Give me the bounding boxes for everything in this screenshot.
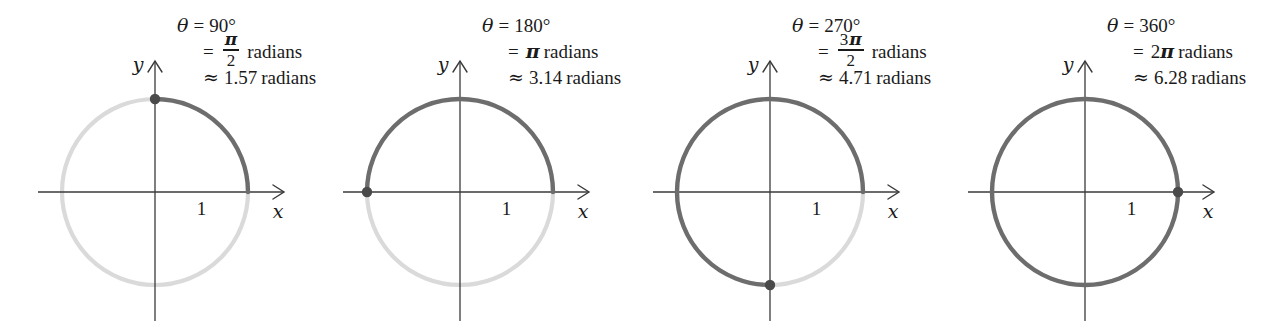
- fraction-numerator: π: [223, 31, 239, 49]
- theta-symbol: θ: [177, 16, 188, 35]
- label-degrees: θ=90°: [177, 12, 316, 38]
- label-radians-exact: =π2radians: [177, 38, 316, 64]
- x-axis-label: x: [1203, 200, 1214, 222]
- radians-word: radians: [1178, 42, 1233, 61]
- radius-label: 1: [1127, 198, 1137, 219]
- radians-approx-value: 4.71: [839, 68, 872, 87]
- label-radians-approx: ≈3.14radians: [482, 64, 621, 90]
- equals-sign: =: [508, 42, 519, 61]
- degrees-value: 360°: [1139, 16, 1175, 35]
- radians-approx-value: 1.57: [224, 68, 257, 87]
- angle-label-block: θ=360°=2πradians≈6.28radians: [1107, 12, 1246, 90]
- equals-sign: =: [498, 16, 509, 35]
- terminal-point-dot: [362, 187, 372, 197]
- radians-approx-value: 3.14: [529, 68, 562, 87]
- label-radians-approx: ≈6.28radians: [1107, 64, 1246, 90]
- angle-label-block: θ=180°=πradians≈3.14radians: [482, 12, 621, 90]
- radians-word: radians: [876, 68, 931, 87]
- approx-sign: ≈: [508, 68, 524, 87]
- theta-symbol: θ: [482, 16, 493, 35]
- radians-coefficient: 2: [1151, 41, 1161, 62]
- theta-symbol: θ: [792, 16, 803, 35]
- terminal-point-dot: [765, 280, 775, 290]
- panel-270: 1xyθ=270°=3π2radians≈4.71radians: [620, 0, 920, 335]
- panel-180: 1xyθ=180°=πradians≈3.14radians: [310, 0, 610, 335]
- circle-arc-traced: [155, 99, 248, 192]
- panel-360: 1xyθ=360°=2πradians≈6.28radians: [935, 0, 1235, 335]
- fraction-denominator: 2: [844, 52, 857, 70]
- equals-sign: =: [818, 42, 829, 61]
- degrees-value: 180°: [514, 16, 550, 35]
- pi-symbol: π: [225, 29, 237, 49]
- approx-sign: ≈: [1133, 68, 1149, 87]
- panel-90: 1xyθ=90°=π2radians≈1.57radians: [5, 0, 305, 335]
- radius-label: 1: [502, 198, 512, 219]
- pi-symbol: π: [849, 29, 861, 49]
- x-axis-label: x: [888, 200, 899, 222]
- label-radians-exact: =πradians: [482, 38, 621, 64]
- theta-symbol: θ: [1107, 16, 1118, 35]
- angle-label-block: θ=270°=3π2radians≈4.71radians: [792, 12, 931, 90]
- approx-sign: ≈: [203, 68, 219, 87]
- equals-sign: =: [1123, 16, 1134, 35]
- radians-exact-value: π: [526, 42, 540, 61]
- pi-symbol: π: [526, 40, 540, 62]
- radians-approx-value: 6.28: [1154, 68, 1187, 87]
- unit-circle-figure: 1xyθ=90°=π2radians≈1.57radians1xyθ=180°=…: [0, 0, 1278, 335]
- approx-sign: ≈: [818, 68, 834, 87]
- radians-word: radians: [261, 68, 316, 87]
- equals-sign: =: [1133, 42, 1144, 61]
- equals-sign: =: [808, 16, 819, 35]
- radians-word: radians: [1191, 68, 1246, 87]
- terminal-point-dot: [150, 94, 160, 104]
- label-degrees: θ=360°: [1107, 12, 1246, 38]
- radius-label: 1: [197, 198, 207, 219]
- label-radians-exact: =3π2radians: [792, 38, 931, 64]
- pi-symbol: π: [1160, 40, 1174, 62]
- radians-fraction: π2: [223, 31, 239, 70]
- y-axis-label: y: [747, 53, 759, 75]
- fraction-numerator: 3π: [838, 31, 864, 49]
- angle-label-block: θ=90°=π2radians≈1.57radians: [177, 12, 316, 90]
- fraction-denominator: 2: [225, 52, 238, 70]
- radians-fraction: 3π2: [838, 31, 864, 70]
- radius-label: 1: [812, 198, 822, 219]
- terminal-point-dot: [1173, 187, 1183, 197]
- x-axis-label: x: [578, 200, 589, 222]
- radians-word: radians: [247, 42, 302, 61]
- equals-sign: =: [203, 42, 214, 61]
- label-radians-exact: =2πradians: [1107, 38, 1246, 64]
- fraction-coefficient: 3: [840, 30, 849, 49]
- radians-word: radians: [544, 42, 599, 61]
- label-radians-approx: ≈1.57radians: [177, 64, 316, 90]
- y-axis-label: y: [1062, 53, 1074, 75]
- radians-word: radians: [872, 42, 927, 61]
- radians-word: radians: [566, 68, 621, 87]
- radians-exact-value: 2π: [1151, 42, 1174, 61]
- y-axis-label: y: [132, 53, 144, 75]
- y-axis-label: y: [437, 53, 449, 75]
- label-degrees: θ=180°: [482, 12, 621, 38]
- x-axis-label: x: [273, 200, 284, 222]
- equals-sign: =: [193, 16, 204, 35]
